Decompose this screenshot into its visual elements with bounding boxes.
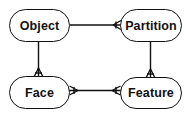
edge-partition-feature (146, 42, 155, 78)
entity-partition: Partition (120, 9, 182, 42)
entity-label: Face (25, 86, 54, 100)
entity-feature: Feature (120, 77, 182, 109)
er-diagram: Object Partition Face Feature (0, 0, 188, 116)
edge-object-partition (70, 21, 121, 30)
entity-face: Face (9, 76, 70, 109)
entity-label: Partition (125, 19, 177, 33)
entity-label: Feature (128, 86, 174, 100)
entity-object: Object (9, 9, 70, 42)
edge-object-face (34, 42, 43, 77)
edge-face-feature (69, 86, 121, 95)
entity-label: Object (20, 19, 60, 33)
